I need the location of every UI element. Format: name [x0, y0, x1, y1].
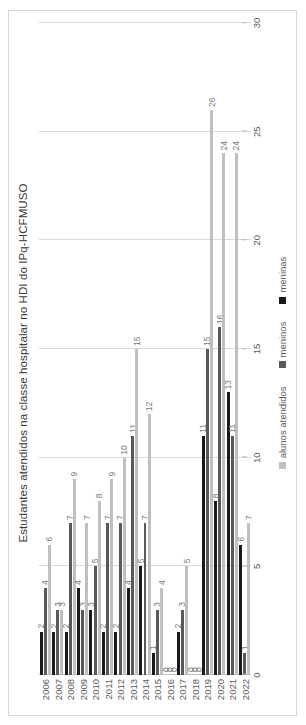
- bar-alunos-atendidos: [185, 566, 188, 675]
- legend-swatch-icon: [279, 362, 286, 369]
- bar-track: 9: [73, 23, 76, 675]
- bar-meninas: [40, 632, 43, 675]
- tick-mark: [242, 674, 247, 675]
- bar-track: 24: [222, 23, 225, 675]
- bar-track: 8: [98, 23, 101, 675]
- bar-track: 5: [185, 23, 188, 675]
- bar-track: 7: [144, 23, 147, 675]
- bar-track: 0: [189, 23, 192, 675]
- bar-track: 4: [160, 23, 163, 675]
- bar-group: 000: [164, 23, 176, 675]
- bar-track: 0: [164, 23, 167, 675]
- bar-track: 2: [114, 23, 117, 675]
- bar-track: 7: [69, 23, 72, 675]
- bar-track: 4: [127, 23, 130, 675]
- bar-meninos: [81, 610, 84, 675]
- bar-track: 3: [56, 23, 59, 675]
- rotated-figure: Estudantes atendidos na classe hospitala…: [0, 0, 306, 725]
- category-axis-tick: 2008: [65, 679, 76, 700]
- bar-track: 11: [131, 23, 134, 675]
- bar-group: 233: [51, 23, 63, 675]
- category-axis-tick: 2016: [164, 679, 175, 700]
- category-axis-tick: 2007: [52, 679, 63, 700]
- bar-track: 0: [168, 23, 171, 675]
- bar-track: 13: [227, 23, 230, 675]
- bar-meninos: [243, 653, 246, 675]
- bar-meninos: [106, 523, 109, 675]
- chart-page: Estudantes atendidos na classe hospitala…: [0, 0, 306, 725]
- bar-track: 2: [65, 23, 68, 675]
- bar-group: 81624: [214, 23, 226, 675]
- category-axis-tick: 2006: [40, 679, 51, 700]
- chart-title: Estudantes atendidos na classe hospitala…: [17, 11, 29, 715]
- legend-item-meninos[interactable]: meninos: [277, 322, 288, 369]
- bar-track: 7: [106, 23, 109, 675]
- bar-track: 2: [40, 23, 43, 675]
- bar-track: 3: [156, 23, 159, 675]
- value-axis-tick: 20: [251, 235, 262, 246]
- value-axis-tick: 30: [251, 18, 262, 29]
- bar-meninos: [218, 327, 221, 675]
- bar-track: 7: [247, 23, 250, 675]
- bar-group: 279: [101, 23, 113, 675]
- bar-meninas: [127, 588, 130, 675]
- bar-track: 3: [181, 23, 184, 675]
- bar-alunos-atendidos: [110, 479, 113, 675]
- category-axis-tick: 2014: [140, 679, 151, 700]
- bar-meninos: [231, 436, 234, 675]
- value-axis-tick: 15: [251, 344, 262, 355]
- category-axis-tick: 2012: [115, 679, 126, 700]
- bar-track: 0: [173, 23, 176, 675]
- bar-track: 0: [198, 23, 201, 675]
- bar-track: 26: [210, 23, 213, 675]
- tick-mark: [242, 239, 247, 240]
- value-axis: 051015202530: [251, 23, 267, 675]
- bar-track: 2: [52, 23, 55, 675]
- bar-meninas: [102, 632, 105, 675]
- category-axis-tick: 2021: [227, 679, 238, 700]
- bar-meninos: [119, 523, 122, 675]
- bar-track: 1: [152, 23, 155, 675]
- bar-meninos: [69, 523, 72, 675]
- bar-alunos-atendidos: [235, 153, 238, 675]
- bar-meninos: [144, 523, 147, 675]
- tick-mark: [242, 131, 247, 132]
- bar-meninas: [202, 436, 205, 675]
- bar-alunos-atendidos: [60, 610, 63, 675]
- bar-alunos-atendidos: [73, 479, 76, 675]
- bar-track: 11: [231, 23, 234, 675]
- bar-meninos: [44, 588, 47, 675]
- bar-rows: 2462332794373582792710411155712134000235…: [39, 23, 251, 675]
- chart-legend: alunos atendidosmeninosmeninas: [277, 11, 288, 715]
- bar-meninas: [65, 632, 68, 675]
- category-axis-tick: 2015: [152, 679, 163, 700]
- value-axis-tick: 5: [251, 564, 262, 569]
- bar-meninas: [52, 632, 55, 675]
- category-axis-tick: 2020: [214, 679, 225, 700]
- tick-mark: [242, 457, 247, 458]
- bar-alunos-atendidos: [222, 153, 225, 675]
- category-axis-tick: 2022: [239, 679, 250, 700]
- bar-track: 15: [135, 23, 138, 675]
- legend-swatch-icon: [279, 462, 286, 469]
- bar-track: 3: [81, 23, 84, 675]
- bar-group: 235: [176, 23, 188, 675]
- bar-alunos-atendidos: [98, 501, 101, 675]
- bar-alunos-atendidos: [135, 349, 138, 675]
- bar-group: 131124: [226, 23, 238, 675]
- bar-meninas: [214, 501, 217, 675]
- bar-group: 5712: [139, 23, 151, 675]
- bar-meninas: [227, 392, 230, 675]
- bar-meninos: [181, 610, 184, 675]
- bar-meninos: [156, 610, 159, 675]
- legend-item-alunos-atendidos[interactable]: alunos atendidos: [277, 387, 288, 470]
- bar-group: 358: [89, 23, 101, 675]
- category-axis-tick: 2017: [177, 679, 188, 700]
- bar-group: 134: [151, 23, 163, 675]
- bar-alunos-atendidos: [210, 110, 213, 675]
- bar-track: 5: [94, 23, 97, 675]
- bar-meninos: [56, 610, 59, 675]
- legend-item-meninas[interactable]: meninas: [277, 257, 288, 304]
- tick-mark: [242, 22, 247, 23]
- legend-swatch-icon: [279, 297, 286, 304]
